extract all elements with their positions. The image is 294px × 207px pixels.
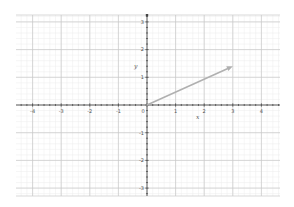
x-axis-label: x — [196, 113, 200, 120]
x-tick-label: 0 — [141, 108, 144, 114]
x-tick-label: -3 — [59, 108, 64, 114]
x-tick-label: -2 — [87, 108, 92, 114]
vector-arrow — [147, 66, 233, 105]
x-tick-label: 3 — [231, 108, 234, 114]
x-tick-label: 4 — [260, 108, 263, 114]
y-tick-label: -2 — [139, 157, 144, 163]
y-tick-label: 3 — [141, 19, 144, 25]
x-tick-label: 2 — [203, 108, 206, 114]
y-tick-label: 1 — [141, 74, 144, 80]
y-tick-label: -3 — [139, 185, 144, 191]
coordinate-plane: -4-3-2-101234321-1-2-3 x y — [0, 0, 294, 207]
y-tick-label: -1 — [139, 130, 144, 136]
x-tick-label: 1 — [174, 108, 177, 114]
y-axis-label: y — [133, 62, 138, 70]
x-tick-label: -4 — [30, 108, 35, 114]
x-tick-label: -1 — [116, 108, 121, 114]
y-tick-label: 2 — [141, 46, 144, 52]
